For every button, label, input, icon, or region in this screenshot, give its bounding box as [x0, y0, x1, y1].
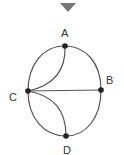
- graph-diagram: A B C D: [0, 0, 124, 155]
- edge-a-b: [65, 46, 101, 90]
- triangle-down-marker-icon: [60, 3, 76, 12]
- edge-b-d: [66, 90, 101, 136]
- node-label-b: B: [106, 74, 113, 86]
- edge-a-c-inner: [28, 46, 65, 91]
- node-label-d: D: [63, 144, 71, 155]
- node-b: [98, 87, 104, 93]
- node-d: [63, 133, 69, 139]
- node-label-c: C: [9, 91, 17, 103]
- edge-c-b: [28, 90, 101, 91]
- edge-c-d-inner: [28, 91, 66, 136]
- node-a: [62, 43, 68, 49]
- node-c: [25, 88, 31, 94]
- node-label-a: A: [61, 27, 69, 39]
